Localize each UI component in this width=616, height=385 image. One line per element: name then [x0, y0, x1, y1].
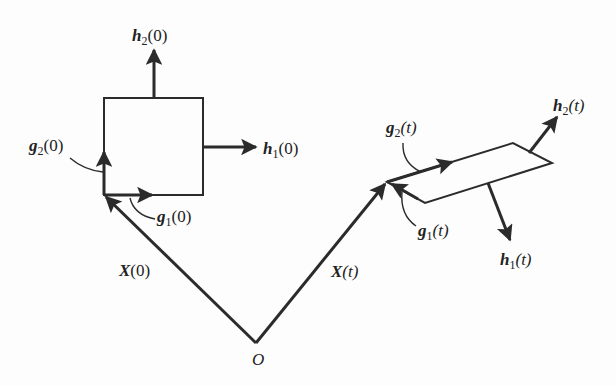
- h1-t-arrow: [488, 183, 510, 240]
- x0-label: X(0): [118, 261, 150, 280]
- origin-label: O: [252, 350, 264, 369]
- h2-t-arrow: [529, 117, 557, 153]
- g2-t-label: g2(t): [385, 118, 417, 140]
- deformation-diagram: h2(0) h1(0) g2(0) g1(0) X(0) X(t) O g2(t…: [0, 0, 616, 385]
- g2-t-leader: [403, 143, 421, 172]
- xt-label: X(t): [330, 262, 359, 281]
- g2-0-leader: [70, 158, 103, 172]
- g2-0-label: g2(0): [28, 136, 63, 158]
- h1-0-label: h1(0): [263, 139, 298, 161]
- g1-t-label: g1(t): [417, 221, 449, 243]
- h1-t-label: h1(t): [500, 250, 532, 272]
- h2-0-label: h2(0): [132, 26, 167, 48]
- g1-t-arrow: [392, 184, 418, 199]
- xt-position-vector: [256, 184, 385, 343]
- g1-0-label: g1(0): [156, 207, 191, 229]
- g1-0-leader: [130, 198, 155, 219]
- diagram-canvas: h2(0) h1(0) g2(0) g1(0) X(0) X(t) O g2(t…: [0, 0, 616, 385]
- h2-t-label: h2(t): [553, 96, 585, 118]
- reference-element-square: [104, 98, 203, 195]
